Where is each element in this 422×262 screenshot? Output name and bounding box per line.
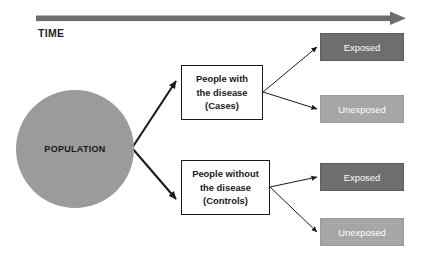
edge-population-to-cases (132, 81, 176, 148)
time-axis-label: TIME (38, 27, 64, 39)
outcome-box-controls-unexposed: Unexposed (320, 218, 404, 246)
time-arrow (36, 12, 406, 25)
group-cases-line-3: (Cases) (205, 99, 239, 113)
group-cases-line-1: People with (196, 72, 248, 86)
outcome-label-controls-unexposed: Unexposed (338, 227, 385, 238)
outcome-label-controls-exposed: Exposed (344, 172, 380, 183)
edge-controls-to-exposed (270, 177, 317, 187)
group-controls-line-2: the disease (200, 181, 251, 195)
population-label: POPULATION (44, 144, 105, 154)
outcome-label-cases-unexposed: Unexposed (338, 104, 385, 115)
outcome-label-cases-exposed: Exposed (344, 42, 380, 53)
population-circle: POPULATION (16, 90, 134, 208)
outcome-box-cases-exposed: Exposed (320, 33, 404, 61)
outcome-box-cases-unexposed: Unexposed (320, 95, 404, 123)
group-controls-line-1: People without (192, 167, 259, 181)
diagram-canvas: TIME POPULATION People with the disease … (0, 0, 422, 262)
group-controls-line-3: (Controls) (203, 194, 248, 208)
group-cases-line-2: the disease (196, 86, 247, 100)
edge-controls-to-unexposed (270, 187, 317, 232)
edge-cases-to-exposed (263, 47, 317, 92)
edge-population-to-controls (132, 148, 176, 199)
group-box-cases: People with the disease (Cases) (181, 65, 263, 120)
group-box-controls: People without the disease (Controls) (181, 160, 270, 215)
outcome-box-controls-exposed: Exposed (320, 163, 404, 191)
edge-cases-to-unexposed (263, 92, 317, 109)
